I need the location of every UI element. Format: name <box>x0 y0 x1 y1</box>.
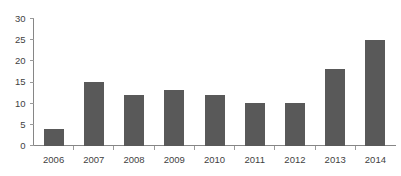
y-axis-tick-label: 5 <box>20 119 25 130</box>
x-axis-tick-label: 2014 <box>365 154 386 165</box>
x-axis-tick-label: 2010 <box>204 154 225 165</box>
x-axis-tick-label: 2012 <box>284 154 305 165</box>
x-axis-tick-label: 2009 <box>164 154 185 165</box>
bar <box>245 103 265 145</box>
bar <box>164 90 184 145</box>
bar <box>205 95 225 146</box>
bar <box>285 103 305 145</box>
bar <box>84 82 104 146</box>
y-axis-tick-label: 10 <box>15 98 26 109</box>
chart-canvas: 051015202530 200620072008200920102011201… <box>0 0 401 176</box>
x-axis-tick-label: 2013 <box>325 154 346 165</box>
bar <box>365 40 385 146</box>
bar-chart: 051015202530 200620072008200920102011201… <box>0 0 401 176</box>
x-axis-tick-label: 2007 <box>83 154 104 165</box>
bar <box>325 69 345 145</box>
x-axis-tick-label: 2008 <box>123 154 144 165</box>
x-axis-tick-label: 2006 <box>43 154 64 165</box>
x-axis-tick-label: 2011 <box>245 154 265 165</box>
y-axis-tick-label: 20 <box>15 55 26 66</box>
bar <box>124 95 144 146</box>
y-axis-tick-label: 25 <box>15 34 26 45</box>
x-axis-tick-labels: 200620072008200920102011201220132014 <box>43 154 386 165</box>
y-axis-tick-label: 0 <box>20 140 25 151</box>
y-axis-tick-label: 30 <box>15 13 26 24</box>
y-axis-tick-label: 15 <box>15 76 26 87</box>
bar <box>44 129 64 146</box>
